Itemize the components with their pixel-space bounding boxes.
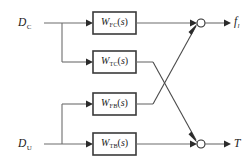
block-label-wtc: WTC(s) xyxy=(93,56,136,66)
sum-top-circle xyxy=(197,19,205,27)
wire-wtc-diagonal-to-sum-bottom xyxy=(153,62,196,140)
input-dc-subscript: C xyxy=(27,23,32,31)
block-wfc-arg: (s) xyxy=(117,16,128,27)
arrowhead-into-block-wtb xyxy=(86,141,93,148)
arrowhead-output-f xyxy=(224,20,231,27)
block-wtc-subscript: TC xyxy=(109,60,117,67)
input-label-dc: DC xyxy=(18,17,31,29)
arrowhead-wtc-into-sum-bottom xyxy=(189,132,198,144)
block-wfb-subscript: FB xyxy=(110,102,118,109)
output-f-subscript: l xyxy=(238,22,240,30)
sum-bottom-circle xyxy=(197,140,205,148)
arrowhead-into-block-wfb xyxy=(86,101,93,108)
block-wfc-symbol: W xyxy=(101,16,109,27)
block-wfb-symbol: W xyxy=(101,97,109,108)
arrowhead-into-block-wfc xyxy=(86,20,93,27)
block-wfc-subscript: FC xyxy=(110,21,118,28)
input-du-symbol: D xyxy=(18,137,26,149)
arrowhead-wfb-into-sum-top xyxy=(189,24,198,36)
input-du-subscript: U xyxy=(27,144,32,152)
block-label-wfc: WFC(s) xyxy=(93,17,136,27)
output-label-f: fl xyxy=(234,16,239,28)
arrowhead-output-t xyxy=(224,141,231,148)
output-label-t: T xyxy=(234,138,240,150)
block-wtb-symbol: W xyxy=(101,137,109,148)
block-label-wfb: WFB(s) xyxy=(93,98,136,108)
wire-wfb-diagonal-to-sum-top xyxy=(153,26,196,104)
block-wtc-arg: (s) xyxy=(118,55,129,66)
arrowhead-wtb-into-sum-bottom xyxy=(190,141,197,148)
block-wtb-subscript: TB xyxy=(109,142,117,149)
block-wfb-arg: (s) xyxy=(117,97,128,108)
input-dc-symbol: D xyxy=(18,16,26,28)
input-label-du: DU xyxy=(18,138,31,150)
block-wtb-arg: (s) xyxy=(118,137,129,148)
block-wtc-symbol: W xyxy=(101,55,109,66)
output-f-symbol: f xyxy=(234,15,237,27)
output-t-symbol: T xyxy=(234,137,240,149)
block-label-wtb: WTB(s) xyxy=(93,138,136,148)
arrowhead-into-block-wtc xyxy=(86,59,93,66)
block-diagram-canvas: DC DU fl T WFC(s) WTC(s) WFB(s) WTB(s) xyxy=(0,0,251,168)
